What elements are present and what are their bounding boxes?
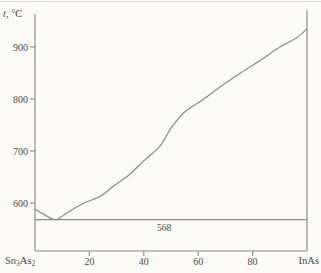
y-tick-label: 900 <box>13 42 28 53</box>
liquidus-curve <box>35 29 307 220</box>
x-tick-label: 20 <box>84 256 94 267</box>
y-tick-label: 600 <box>13 198 28 209</box>
x-tick-label: 60 <box>193 256 203 267</box>
phase-diagram-chart: 900800700600t, °C20406080Sn3As2InAs568 <box>0 0 321 273</box>
x-tick-label: 80 <box>248 256 258 267</box>
eutectic-label: 568 <box>157 223 172 233</box>
x-axis-right-label: InAs <box>299 255 319 266</box>
x-tick-label: 40 <box>139 256 149 267</box>
x-axis-left-label: Sn3As2 <box>5 255 36 268</box>
y-tick-label: 700 <box>13 146 28 157</box>
y-axis-title: t, °C <box>3 8 22 19</box>
y-tick-label: 800 <box>13 94 28 105</box>
phase-diagram-figure: 900800700600t, °C20406080Sn3As2InAs568 <box>0 0 321 273</box>
